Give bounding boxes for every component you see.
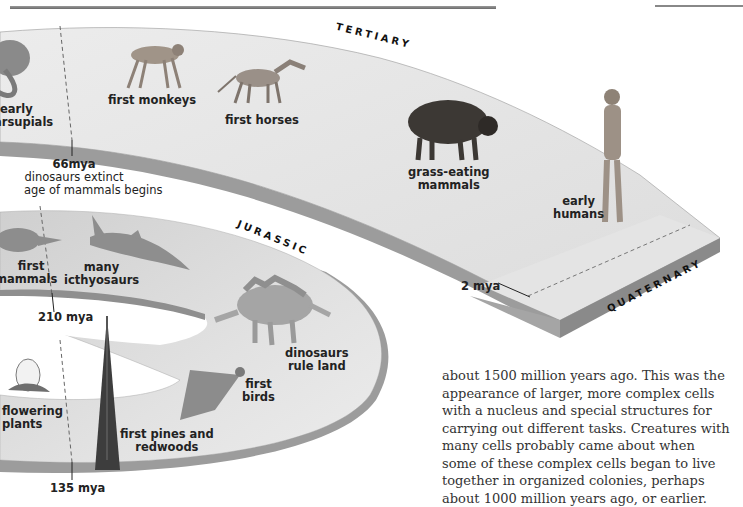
label-first-mammals: first mammals: [0, 260, 57, 286]
label-first-horses: first horses: [225, 114, 299, 127]
label-line: mammals: [408, 179, 490, 192]
paragraph-line: some of these complex cells began to liv…: [442, 455, 742, 473]
paragraph-line: together in organized colonies, perhaps: [442, 472, 742, 490]
body-paragraph: about 1500 million years ago. This was t…: [442, 367, 742, 507]
marker-66mya: 66mya dinosaurs extinct age of mammals b…: [24, 158, 124, 197]
paragraph-line: many cells probably came about when: [442, 437, 742, 455]
paragraph-line: appearance of larger, more complex cells: [442, 385, 742, 403]
paragraph-line: with a nucleus and special structures fo…: [442, 402, 742, 420]
flower-icon: [8, 359, 50, 392]
marker-135mya: 135 mya: [50, 482, 105, 495]
paragraph-line: about 1500 million years ago. This was t…: [442, 367, 742, 385]
marker-210mya: 210 mya: [38, 311, 93, 324]
label-line: icthyosaurs: [64, 274, 139, 287]
label-flowering-plants: flowering plants: [2, 405, 63, 431]
label-line: birds: [242, 391, 275, 404]
label-early-marsupials: early marsupials: [0, 103, 53, 129]
marker-desc: age of mammals begins: [24, 184, 124, 197]
label-line: rule land: [285, 360, 349, 373]
label-line: redwoods: [120, 441, 214, 454]
paragraph-line: about 1000 million years ago, or earlier…: [442, 490, 742, 507]
label-line: mammals: [0, 273, 57, 286]
label-first-monkeys: first monkeys: [108, 94, 196, 107]
label-first-pines: first pines and redwoods: [120, 428, 214, 454]
marker-2mya: 2 mya: [461, 280, 500, 293]
paragraph-line: carrying out different tasks. Creatures …: [442, 420, 742, 438]
label-first-birds: first birds: [242, 378, 275, 404]
label-early-humans: early humans: [553, 195, 604, 221]
label-dinosaurs-rule-land: dinosaurs rule land: [285, 347, 349, 373]
label-line: marsupials: [0, 116, 53, 129]
label-line: humans: [553, 208, 604, 221]
label-grass-eating-mammals: grass-eating mammals: [408, 166, 490, 192]
label-line: plants: [2, 418, 63, 431]
label-many-icthyosaurs: many icthyosaurs: [64, 261, 139, 287]
